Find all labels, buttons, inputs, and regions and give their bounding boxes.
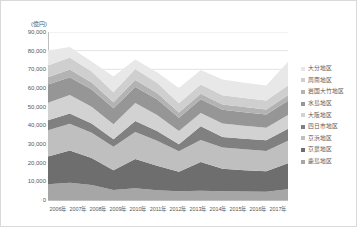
- legend-color-swatch: [301, 125, 305, 129]
- x-axis-tick-label: 2012年: [168, 204, 188, 216]
- x-axis-tick-labels: 2006年2007年2008年2009年2010年2011年2012年2013年…: [48, 204, 288, 216]
- y-axis-tick-label: 30,000: [28, 140, 46, 148]
- legend-item-label: 京浜地区: [308, 135, 332, 142]
- legend-color-swatch: [301, 160, 305, 164]
- legend-color-swatch: [301, 113, 305, 117]
- legend-item-label: 大分地区: [308, 65, 332, 72]
- legend-color-swatch: [301, 67, 305, 71]
- x-axis-tick-label: 2011年: [148, 204, 168, 216]
- legend-item-label: 鹿島地区: [308, 158, 332, 165]
- legend-color-swatch: [301, 90, 305, 94]
- y-axis-tick-label: 60,000: [28, 84, 46, 92]
- x-axis-tick-label: 2016年: [248, 204, 268, 216]
- legend-item-label: 岩国大竹地区: [308, 88, 344, 95]
- y-axis-tick-label: 40,000: [28, 121, 46, 129]
- chart-container: (億円) 90,00080,00070,00060,00050,00040,00…: [0, 0, 357, 227]
- legend-item[interactable]: 水島地区: [301, 98, 357, 110]
- x-axis-tick-label: 2014年: [208, 204, 228, 216]
- legend-item-label: 水島地区: [308, 100, 332, 107]
- legend-item[interactable]: 四日市地区: [301, 121, 357, 133]
- y-axis-tick-label: 50,000: [28, 103, 46, 111]
- y-axis-tick-label: 20,000: [28, 159, 46, 167]
- y-axis-tick-label: 90,000: [28, 28, 46, 36]
- y-axis-tick-label: 0: [43, 196, 46, 204]
- x-axis-tick-label: 2006年: [48, 204, 68, 216]
- plot-area: [48, 32, 288, 200]
- y-axis-tick-label: 70,000: [28, 65, 46, 73]
- x-axis-tick-label: 2010年: [128, 204, 148, 216]
- x-axis-tick-label: 2015年: [228, 204, 248, 216]
- legend-item-label: 京葉地区: [308, 146, 332, 153]
- legend-item-label: 四日市地区: [308, 123, 338, 130]
- x-axis-tick-label: 2013年: [188, 204, 208, 216]
- y-axis-tick-label: 80,000: [28, 47, 46, 55]
- x-axis-tick-label: 2009年: [108, 204, 128, 216]
- legend-item[interactable]: 岩国大竹地区: [301, 86, 357, 98]
- legend-item-label: 大阪地区: [308, 112, 332, 119]
- legend-item[interactable]: 大阪地区: [301, 109, 357, 121]
- legend: 大分地区周南地区岩国大竹地区水島地区大阪地区四日市地区京浜地区京葉地区鹿島地区: [301, 63, 357, 167]
- y-axis-tick-labels: 90,00080,00070,00060,00050,00040,00030,0…: [13, 26, 46, 206]
- legend-item-label: 周南地区: [308, 77, 332, 84]
- legend-item[interactable]: 京浜地区: [301, 133, 357, 145]
- stacked-area-svg: [48, 32, 288, 200]
- x-axis-tick-label: 2007年: [68, 204, 88, 216]
- y-axis-tick-label: 10,000: [28, 177, 46, 185]
- legend-item[interactable]: 周南地区: [301, 75, 357, 87]
- legend-item[interactable]: 京葉地区: [301, 144, 357, 156]
- legend-color-swatch: [301, 136, 305, 140]
- x-axis-tick-label: 2017年: [268, 204, 288, 216]
- legend-color-swatch: [301, 102, 305, 106]
- legend-item[interactable]: 鹿島地区: [301, 156, 357, 168]
- x-axis-tick-label: 2008年: [88, 204, 108, 216]
- legend-color-swatch: [301, 148, 305, 152]
- area-bands: [48, 47, 288, 200]
- x-axis-line: [48, 200, 288, 201]
- legend-item[interactable]: 大分地区: [301, 63, 357, 75]
- legend-color-swatch: [301, 78, 305, 82]
